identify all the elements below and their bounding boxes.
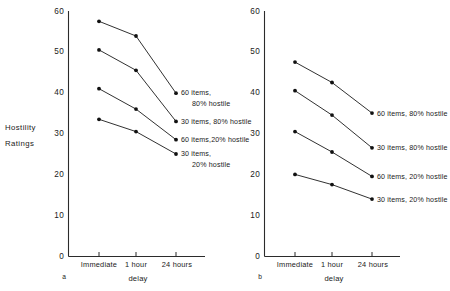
data-point: [134, 34, 138, 38]
panel-b-series-60items-20hostile: 60 items, 20% hostile: [293, 130, 447, 181]
panel-a-x-ticks: [99, 252, 176, 257]
data-point: [174, 138, 178, 142]
data-point: [134, 107, 138, 111]
data-point: [330, 150, 334, 154]
panel-a-identifier: a: [62, 273, 66, 280]
panel-b-ytick-60: 60: [250, 7, 260, 16]
data-point: [97, 19, 101, 23]
series-annotation-line2: 20% hostile: [192, 161, 230, 169]
series-path: [99, 21, 176, 93]
y-axis-title: Hostility Ratings: [5, 123, 36, 148]
figure-container: 60 50 40 30 20 10 0 Immediate 1 hour 24 …: [0, 0, 450, 291]
data-point: [370, 197, 374, 201]
panel-b-series-30items-80hostile: 30 items, 80% hostile: [293, 89, 447, 152]
panel-a-ytick-10: 10: [54, 211, 64, 220]
data-point: [330, 81, 334, 85]
series-annotation-line1: 60 items,: [181, 89, 211, 97]
data-point: [330, 113, 334, 117]
panel-a-series-30items-80hostile: 30 items, 80% hostile: [97, 48, 251, 126]
panel-b-axes: [265, 11, 401, 257]
panel-b-x-axis-title: delay: [324, 274, 343, 283]
data-point: [293, 60, 297, 64]
panel-b-ytick-10: 10: [250, 211, 260, 220]
panel-b: 60 50 40 30 20 10 0 Immediate 1 hour 24 …: [250, 7, 447, 283]
series-annotation-line1: 60 items, 80% hostile: [377, 110, 448, 118]
data-point: [134, 68, 138, 72]
panel-a-ytick-30: 30: [54, 129, 64, 138]
data-point: [97, 117, 101, 121]
panel-b-ytick-30: 30: [250, 129, 260, 138]
data-point: [293, 89, 297, 93]
data-point: [97, 87, 101, 91]
panel-b-xtick-label-immediate: Immediate: [277, 260, 313, 269]
series-path: [99, 119, 176, 154]
data-point: [330, 183, 334, 187]
data-point: [174, 91, 178, 95]
panel-a-ytick-40: 40: [54, 88, 64, 97]
panel-a-xtick-label-24hours: 24 hours: [162, 260, 192, 269]
panel-b-xtick-label-1hour: 1 hour: [321, 260, 343, 269]
data-point: [174, 152, 178, 156]
series-annotation-line1: 60 items, 20% hostile: [377, 173, 448, 181]
data-point: [293, 130, 297, 134]
panel-a-axes: [69, 11, 206, 257]
panel-b-identifier: b: [258, 273, 262, 280]
series-path: [295, 91, 372, 148]
panel-a-series-60items-20hostile: 60 items,20% hostile: [97, 87, 249, 144]
panel-b-xtick-label-24hours: 24 hours: [358, 260, 388, 269]
panel-b-y-ticklabels: 60 50 40 30 20 10 0: [250, 7, 260, 261]
panel-a-ytick-60: 60: [54, 7, 64, 16]
y-axis-title-line2: Ratings: [5, 139, 34, 148]
panel-a-y-ticklabels: 60 50 40 30 20 10 0: [54, 7, 64, 261]
panel-b-ytick-50: 50: [250, 47, 260, 56]
panel-a-xtick-label-immediate: Immediate: [81, 260, 117, 269]
series-annotation-line1: 30 items, 20% hostile: [377, 196, 448, 204]
panel-a-x-ticklabels: Immediate 1 hour 24 hours: [81, 260, 192, 269]
panel-b-x-ticks: [295, 252, 372, 257]
series-path: [295, 62, 372, 113]
series-annotation-line1: 30 items,: [181, 150, 211, 158]
panel-a: 60 50 40 30 20 10 0 Immediate 1 hour 24 …: [54, 7, 251, 283]
series-annotation-line2: 80% hostile: [192, 100, 230, 108]
panel-a-ytick-20: 20: [54, 170, 64, 179]
panel-b-ytick-20: 20: [250, 170, 260, 179]
panel-b-x-ticklabels: Immediate 1 hour 24 hours: [277, 260, 388, 269]
panel-a-x-axis-title: delay: [128, 274, 147, 283]
data-point: [370, 111, 374, 115]
panel-a-series-60items-80hostile: 60 items, 80% hostile: [97, 19, 230, 108]
data-point: [370, 175, 374, 179]
data-point: [97, 48, 101, 52]
series-annotation-line1: 30 items, 80% hostile: [377, 144, 448, 152]
data-point: [134, 130, 138, 134]
panel-a-xtick-label-1hour: 1 hour: [125, 260, 147, 269]
panel-a-ytick-50: 50: [54, 47, 64, 56]
panel-b-ytick-0: 0: [255, 252, 260, 261]
y-axis-title-line1: Hostility: [5, 123, 36, 132]
panel-b-series-60items-80hostile: 60 items, 80% hostile: [293, 60, 447, 117]
data-point: [370, 146, 374, 150]
panel-a-ytick-0: 0: [59, 252, 64, 261]
data-point: [293, 173, 297, 177]
series-path: [295, 174, 372, 199]
data-point: [174, 120, 178, 124]
series-annotation-line1: 60 items,20% hostile: [181, 136, 249, 144]
series-annotation-line1: 30 items, 80% hostile: [181, 118, 252, 126]
two-panel-line-chart: 60 50 40 30 20 10 0 Immediate 1 hour 24 …: [0, 0, 450, 291]
panel-b-ytick-40: 40: [250, 88, 260, 97]
